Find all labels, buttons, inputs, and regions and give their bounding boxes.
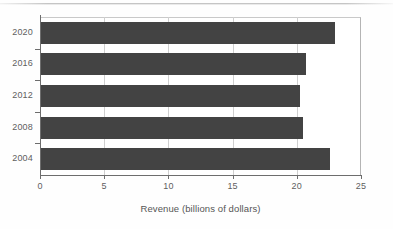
x-tick-10 bbox=[168, 175, 169, 179]
bar-2020 bbox=[41, 22, 335, 44]
x-tick-15 bbox=[233, 175, 234, 179]
y-tick-label-2004: 2004 bbox=[0, 153, 33, 163]
x-tick-5 bbox=[104, 175, 105, 179]
bar-2008 bbox=[41, 117, 303, 139]
bar-2004 bbox=[41, 148, 330, 170]
y-tick-label-2008: 2008 bbox=[0, 122, 33, 132]
y-tick-label-2016: 2016 bbox=[0, 58, 33, 68]
bar-chart-figure: 0510152025 20042008201220162020 Revenue … bbox=[0, 0, 393, 229]
x-tick-label-10: 10 bbox=[148, 181, 188, 191]
x-axis-title: Revenue (billions of dollars) bbox=[40, 203, 361, 214]
y-tick-2016 bbox=[35, 49, 40, 50]
x-tick-label-20: 20 bbox=[277, 181, 317, 191]
scan-artifact-line-secondary bbox=[0, 4, 393, 5]
y-tick-label-2020: 2020 bbox=[0, 27, 33, 37]
x-tick-25 bbox=[361, 175, 362, 179]
x-tick-0 bbox=[40, 175, 41, 179]
bar-2016 bbox=[41, 53, 306, 75]
y-tick-2004 bbox=[35, 143, 40, 144]
y-tick-2008 bbox=[35, 112, 40, 113]
value-axis-line bbox=[40, 175, 362, 176]
x-tick-label-5: 5 bbox=[84, 181, 124, 191]
x-tick-20 bbox=[297, 175, 298, 179]
x-tick-label-25: 25 bbox=[341, 181, 381, 191]
y-tick-2012 bbox=[35, 80, 40, 81]
x-tick-label-15: 15 bbox=[213, 181, 253, 191]
y-tick-label-2012: 2012 bbox=[0, 90, 33, 100]
x-tick-label-0: 0 bbox=[20, 181, 60, 191]
bar-2012 bbox=[41, 85, 300, 107]
